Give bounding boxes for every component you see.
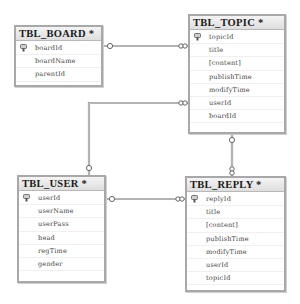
column-name: userId — [209, 99, 231, 107]
column-row[interactable]: userId — [187, 259, 284, 272]
table-reply[interactable]: TBL_REPLY * replyId title [content] publ… — [185, 176, 286, 292]
one-marker-icon — [109, 196, 114, 201]
column-name: gender — [38, 260, 63, 268]
table-title: TBL_BOARD * — [16, 27, 101, 41]
column-name: [content] — [209, 59, 241, 67]
column-row[interactable]: [content] — [190, 57, 284, 70]
one-marker-icon — [107, 43, 112, 48]
column-name: title — [209, 46, 223, 54]
table-title: TBL_USER * — [19, 177, 104, 191]
link-user-topic — [89, 103, 188, 175]
column-row[interactable]: topicId — [187, 272, 284, 285]
column-name: parentId — [35, 70, 65, 78]
column-row[interactable]: boardName — [16, 55, 101, 68]
table-board[interactable]: TBL_BOARD * boardId boardName parentId — [14, 25, 103, 87]
column-row[interactable]: userName — [19, 205, 104, 218]
column-name: userPass — [38, 220, 69, 228]
diagram-canvas: TBL_BOARD * boardId boardName parentId T… — [0, 0, 300, 304]
column-name: userId — [38, 194, 60, 202]
column-row[interactable]: title — [187, 206, 284, 219]
table-user[interactable]: TBL_USER * userId userName userPass head… — [17, 175, 106, 283]
column-name: boardName — [35, 57, 76, 65]
column-name: userName — [38, 207, 74, 215]
column-row[interactable]: title — [190, 44, 284, 57]
column-name: publishTime — [209, 73, 252, 81]
primary-key-icon — [23, 194, 30, 202]
column-row[interactable]: [content] — [187, 219, 284, 232]
one-marker-icon — [86, 165, 91, 170]
column-name: boardId — [35, 44, 62, 52]
column-name: regTime — [38, 247, 67, 255]
column-row[interactable]: userId — [19, 192, 104, 205]
table-title: TBL_TOPIC * — [190, 16, 284, 30]
column-row[interactable]: boardId — [16, 42, 101, 55]
table-topic[interactable]: TBL_TOPIC * topicId title [content] publ… — [188, 14, 286, 134]
column-row[interactable]: gender — [19, 258, 104, 271]
column-row[interactable]: topicId — [190, 31, 284, 44]
column-name: userId — [206, 261, 228, 269]
column-name: title — [206, 208, 220, 216]
column-name: topicId — [206, 274, 231, 282]
column-name: publishTime — [206, 235, 249, 243]
primary-key-icon — [194, 33, 201, 41]
column-row[interactable]: userPass — [19, 218, 104, 231]
column-name: head — [38, 234, 55, 242]
primary-key-icon — [20, 44, 27, 52]
column-name: modifyTime — [206, 248, 247, 256]
column-row[interactable]: userId — [190, 97, 284, 110]
column-row[interactable]: modifyTime — [187, 246, 284, 259]
column-row[interactable]: modifyTime — [190, 84, 284, 97]
column-row[interactable]: publishTime — [187, 233, 284, 246]
column-row[interactable]: head — [19, 232, 104, 245]
column-name: [content] — [206, 221, 238, 229]
one-marker-icon — [229, 137, 234, 142]
column-row[interactable]: parentId — [16, 68, 101, 81]
table-title: TBL_REPLY * — [187, 178, 284, 192]
column-row[interactable]: regTime — [19, 245, 104, 258]
column-name: topicId — [209, 33, 234, 41]
column-name: modifyTime — [209, 86, 250, 94]
column-name: boardId — [209, 112, 236, 120]
column-name: replyId — [206, 195, 231, 203]
column-row[interactable]: boardId — [190, 110, 284, 123]
column-row[interactable]: publishTime — [190, 71, 284, 84]
primary-key-icon — [191, 195, 198, 203]
column-row[interactable]: replyId — [187, 193, 284, 206]
